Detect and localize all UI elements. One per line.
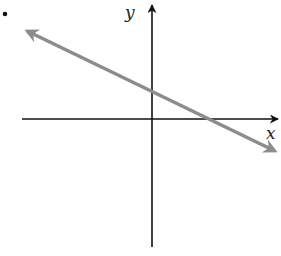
y-axis-label: y xyxy=(124,2,135,22)
bullet-dot xyxy=(3,12,8,17)
x-axis-label: x xyxy=(266,123,276,143)
graph-line xyxy=(27,31,275,151)
coordinate-plane-figure: y x xyxy=(0,0,281,256)
